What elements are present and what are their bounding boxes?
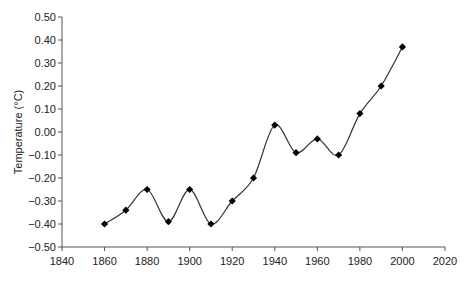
y-tick-label: 0.40 — [35, 34, 56, 46]
x-axis: 1840186018801900192019401960198020002020 — [50, 247, 457, 267]
x-tick-label: 1980 — [348, 255, 372, 267]
x-tick-label: 2000 — [390, 255, 414, 267]
y-tick-label: 0.00 — [35, 126, 56, 138]
x-tick-label: 1960 — [305, 255, 329, 267]
diamond-marker — [378, 82, 385, 89]
y-tick-label: 0.20 — [35, 80, 56, 92]
diamond-marker — [356, 110, 363, 117]
y-axis-title: Temperature (°C) — [12, 90, 24, 174]
series-line — [105, 47, 403, 224]
x-tick-label: 1900 — [177, 255, 201, 267]
y-tick-label: −0.10 — [28, 149, 56, 161]
y-axis: 0.500.400.300.200.100.00−0.10−0.20−0.30−… — [28, 11, 62, 253]
diamond-marker — [186, 186, 193, 193]
y-tick-label: −0.20 — [28, 172, 56, 184]
y-tick-label: 0.10 — [35, 103, 56, 115]
diamond-marker — [101, 220, 108, 227]
diamond-marker — [165, 218, 172, 225]
chart: 0.500.400.300.200.100.00−0.10−0.20−0.30−… — [0, 0, 470, 283]
temperature-series — [101, 43, 406, 227]
diamond-marker — [399, 43, 406, 50]
line-chart: 0.500.400.300.200.100.00−0.10−0.20−0.30−… — [0, 0, 470, 283]
y-tick-label: −0.40 — [28, 218, 56, 230]
diamond-marker — [314, 135, 321, 142]
y-tick-label: −0.30 — [28, 195, 56, 207]
x-tick-label: 1920 — [220, 255, 244, 267]
y-tick-label: 0.30 — [35, 57, 56, 69]
x-tick-label: 1860 — [92, 255, 116, 267]
x-tick-label: 1840 — [50, 255, 74, 267]
x-tick-label: 1880 — [135, 255, 159, 267]
y-tick-label: −0.50 — [28, 241, 56, 253]
y-tick-label: 0.50 — [35, 11, 56, 23]
x-tick-label: 2020 — [433, 255, 457, 267]
diamond-marker — [250, 174, 257, 181]
x-tick-label: 1940 — [263, 255, 287, 267]
